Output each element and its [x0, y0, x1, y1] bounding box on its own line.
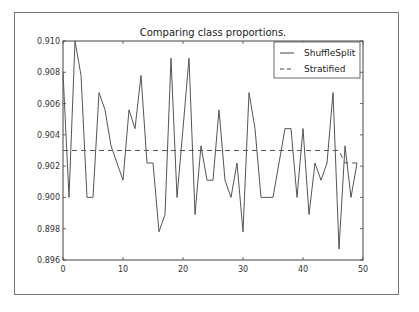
- chart-title: Comparing class proportions.: [140, 27, 287, 38]
- legend: ShuffleSplit Stratified: [274, 42, 360, 78]
- x-tick-label: 0: [60, 265, 65, 274]
- x-tick-label: 40: [298, 265, 308, 274]
- y-tick-label: 0.910: [37, 37, 60, 46]
- chart: Comparing class proportions. 01020304050…: [0, 0, 419, 312]
- x-tick-label: 10: [118, 265, 128, 274]
- y-tick-label: 0.896: [37, 256, 60, 265]
- y-tick-label: 0.898: [37, 225, 60, 234]
- y-tick-label: 0.904: [37, 131, 60, 140]
- legend-label-stratified: Stratified: [304, 64, 345, 74]
- y-tick-label: 0.908: [37, 68, 60, 77]
- x-tick-label: 20: [178, 265, 188, 274]
- y-tick-label: 0.902: [37, 162, 60, 171]
- x-tick-label: 50: [358, 265, 368, 274]
- y-tick-label: 0.900: [37, 193, 60, 202]
- x-tick-label: 30: [238, 265, 248, 274]
- series-line-stratified: [63, 151, 357, 164]
- legend-label-shufflesplit: ShuffleSplit: [304, 48, 356, 58]
- y-tick-label: 0.906: [37, 100, 60, 109]
